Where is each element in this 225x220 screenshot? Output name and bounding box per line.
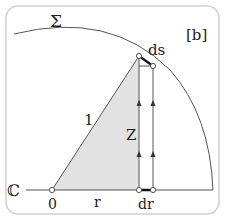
- surface-label: Σ: [50, 11, 62, 31]
- dr-end-point: [150, 187, 155, 192]
- height-label: Z: [126, 126, 136, 144]
- radius-label: r: [94, 194, 101, 210]
- ds-start-point: [136, 53, 141, 58]
- hypotenuse-label: 1: [84, 111, 94, 129]
- diagram-canvas: Σ [b] ds 1 Z ℂ 0 r dr: [0, 0, 225, 220]
- origin-label: 0: [48, 196, 57, 212]
- panel-label: [b]: [186, 26, 207, 44]
- arrow-up-icon: [151, 151, 156, 157]
- plane-label: ℂ: [7, 181, 20, 200]
- dr-label: dr: [138, 196, 154, 212]
- ds-label: ds: [148, 41, 165, 59]
- dr-start-point: [136, 187, 141, 192]
- arrow-up-icon: [151, 100, 156, 106]
- ds-end-point: [150, 63, 155, 68]
- origin-point: [49, 187, 54, 192]
